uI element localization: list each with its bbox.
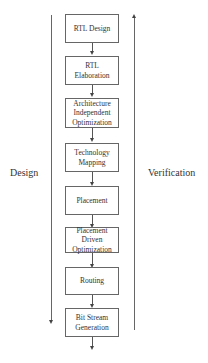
connector (92, 295, 93, 304)
arrow-down-icon (90, 346, 94, 350)
step-bit-stream-generation: Bit Stream Generation (65, 308, 119, 337)
step-routing: Routing (65, 267, 119, 295)
verification-arrow-up-icon (132, 14, 136, 18)
step-rtl-design: RTL Design (65, 14, 119, 43)
arrow-down-icon (90, 93, 94, 97)
step-architecture-independent-optimization: Architecture Independent Optimization (65, 98, 119, 128)
step-placement-driven-optimization: Placement Driven Optimization (65, 227, 119, 253)
step-placement: Placement (65, 186, 119, 215)
verification-flow-line (134, 18, 135, 330)
connector (92, 337, 93, 346)
verification-label: Verification (148, 167, 195, 178)
design-flow-line (51, 15, 52, 321)
step-rtl-elaboration: RTL Elaboration (65, 56, 119, 85)
design-arrow-down-icon (49, 320, 53, 324)
arrow-down-icon (90, 51, 94, 55)
design-label: Design (10, 167, 38, 178)
arrow-down-icon (90, 138, 94, 142)
step-technology-mapping: Technology Mapping (65, 143, 119, 172)
